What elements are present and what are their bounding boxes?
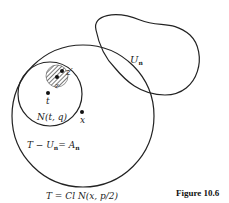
label-t: t <box>46 96 50 106</box>
label-z-prime: z′ <box>65 67 73 77</box>
point-t <box>46 91 50 95</box>
figure-10-6-diagram: z′ z t x N(t, q) Un T − Un= An T = Cl N(… <box>0 0 229 203</box>
point-z-prime <box>60 69 64 73</box>
label-z: z <box>54 82 59 90</box>
label-t-closure: T = Cl N(x, p/2) <box>46 191 119 201</box>
label-x: x <box>80 115 85 125</box>
label-n-t-q: N(t, q) <box>36 112 67 122</box>
label-u-n: Un <box>130 54 143 66</box>
figure-caption: Figure 10.6 <box>176 188 220 198</box>
point-z <box>55 75 59 79</box>
open-set-u-n-blob <box>96 15 200 95</box>
point-x <box>80 110 84 114</box>
label-t-minus-u-n-equals-a-n: T − Un= An <box>27 140 80 151</box>
